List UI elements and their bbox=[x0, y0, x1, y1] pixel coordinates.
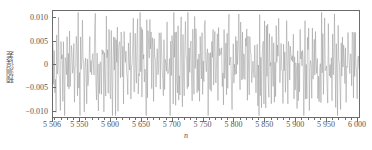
y-tick-mark bbox=[52, 17, 56, 18]
y-axis-tick-labels: 0.0100.0050−0.005−0.010 bbox=[0, 0, 48, 150]
x-minor-tick-mark bbox=[345, 118, 346, 120]
x-minor-tick-mark bbox=[283, 118, 284, 120]
x-minor-tick-mark bbox=[85, 118, 86, 120]
x-tick-mark bbox=[264, 118, 265, 122]
x-tick-mark bbox=[79, 118, 80, 122]
x-minor-tick-mark bbox=[73, 118, 74, 120]
prediction-error-series bbox=[53, 11, 359, 117]
x-minor-tick-mark bbox=[209, 118, 210, 120]
x-minor-tick-mark bbox=[338, 118, 339, 120]
x-minor-tick-mark bbox=[215, 118, 216, 120]
x-minor-tick-mark bbox=[104, 118, 105, 120]
x-tick-mark bbox=[52, 118, 53, 122]
x-minor-tick-mark bbox=[252, 118, 253, 120]
x-tick-mark bbox=[357, 118, 358, 122]
y-tick-mark bbox=[52, 41, 56, 42]
x-tick-mark bbox=[295, 118, 296, 122]
x-minor-tick-mark bbox=[61, 118, 62, 120]
series-canvas-wrapper bbox=[53, 11, 359, 117]
y-tick-label: −0.005 bbox=[25, 83, 48, 92]
plot-area bbox=[52, 10, 360, 118]
x-minor-tick-mark bbox=[129, 118, 130, 120]
y-tick-label: 0.010 bbox=[30, 13, 48, 22]
x-minor-tick-mark bbox=[227, 118, 228, 120]
x-minor-tick-mark bbox=[277, 118, 278, 120]
x-minor-tick-mark bbox=[190, 118, 191, 120]
x-minor-tick-mark bbox=[54, 118, 55, 120]
x-minor-tick-mark bbox=[98, 118, 99, 120]
x-minor-tick-mark bbox=[184, 118, 185, 120]
x-tick-mark bbox=[172, 118, 173, 122]
x-minor-tick-mark bbox=[153, 118, 154, 120]
y-tick-label: −0.010 bbox=[25, 106, 48, 115]
y-tick-mark bbox=[52, 64, 56, 65]
x-tick-mark bbox=[326, 118, 327, 122]
x-minor-tick-mark bbox=[314, 118, 315, 120]
y-tick-mark bbox=[52, 111, 56, 112]
series-path bbox=[53, 12, 359, 115]
x-axis-title: n bbox=[0, 131, 372, 140]
y-tick-label: 0.005 bbox=[30, 36, 48, 45]
x-minor-tick-mark bbox=[320, 118, 321, 120]
x-tick-mark bbox=[233, 118, 234, 122]
x-minor-tick-mark bbox=[196, 118, 197, 120]
x-minor-tick-mark bbox=[67, 118, 68, 120]
x-minor-tick-mark bbox=[271, 118, 272, 120]
x-minor-tick-mark bbox=[240, 118, 241, 120]
x-minor-tick-mark bbox=[178, 118, 179, 120]
x-minor-tick-mark bbox=[289, 118, 290, 120]
x-minor-tick-mark bbox=[159, 118, 160, 120]
x-minor-tick-mark bbox=[246, 118, 247, 120]
x-tick-mark bbox=[141, 118, 142, 122]
x-minor-tick-mark bbox=[221, 118, 222, 120]
x-minor-tick-mark bbox=[135, 118, 136, 120]
x-minor-tick-mark bbox=[122, 118, 123, 120]
x-tick-mark bbox=[110, 118, 111, 122]
chart-figure: 预测误差 0.0100.0050−0.005−0.010 n 5 5065 55… bbox=[0, 0, 372, 150]
x-minor-tick-mark bbox=[92, 118, 93, 120]
x-minor-tick-mark bbox=[166, 118, 167, 120]
y-tick-mark bbox=[52, 87, 56, 88]
x-minor-tick-mark bbox=[308, 118, 309, 120]
x-minor-tick-mark bbox=[332, 118, 333, 120]
x-tick-mark bbox=[203, 118, 204, 122]
x-minor-tick-mark bbox=[258, 118, 259, 120]
y-tick-label: 0 bbox=[44, 60, 48, 69]
x-minor-tick-mark bbox=[301, 118, 302, 120]
x-minor-tick-mark bbox=[116, 118, 117, 120]
x-minor-tick-mark bbox=[147, 118, 148, 120]
x-minor-tick-mark bbox=[351, 118, 352, 120]
